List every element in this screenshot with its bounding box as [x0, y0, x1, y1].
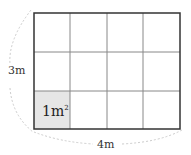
unit-label-base: 1m — [42, 103, 64, 119]
width-label: 4m — [97, 139, 114, 150]
grid-diagram — [0, 0, 191, 155]
height-label: 3m — [8, 65, 25, 76]
unit-square-label: 1m2 — [42, 104, 69, 118]
height-arc — [10, 10, 31, 64]
width-arc-left — [34, 132, 93, 144]
width-arc-right — [122, 130, 182, 144]
unit-label-exponent: 2 — [64, 104, 68, 112]
height-arc-lower — [10, 88, 33, 132]
